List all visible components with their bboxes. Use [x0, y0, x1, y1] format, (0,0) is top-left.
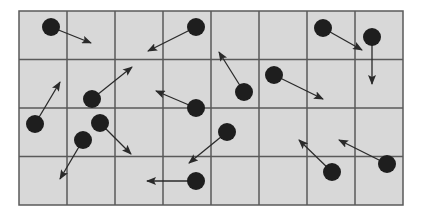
particle-dot: [91, 114, 109, 132]
particle-dot: [235, 83, 253, 101]
particle-dot: [187, 18, 205, 36]
particle-velocity-diagram: [0, 0, 423, 211]
particle-dot: [42, 18, 60, 36]
particle-dot: [26, 115, 44, 133]
particle-dot: [187, 172, 205, 190]
particle-dot: [187, 99, 205, 117]
particle-dot: [314, 19, 332, 37]
particle-dot: [378, 155, 396, 173]
particle-dot: [363, 28, 381, 46]
particle-dot: [83, 90, 101, 108]
particle-dot: [74, 131, 92, 149]
particle-dot: [323, 163, 341, 181]
particle-dot: [265, 66, 283, 84]
particle-dot: [218, 123, 236, 141]
